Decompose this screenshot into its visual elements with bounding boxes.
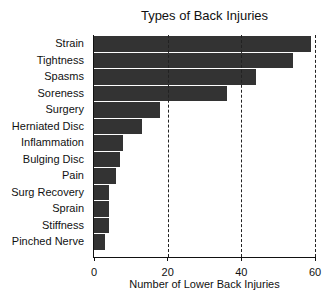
y-category-label: Bulging Disc bbox=[23, 153, 84, 165]
x-tick-label: 40 bbox=[226, 266, 256, 278]
y-category-label: Sprain bbox=[52, 202, 84, 214]
y-category-label: Pinched Nerve bbox=[12, 235, 84, 247]
x-tick-label: 60 bbox=[300, 266, 330, 278]
x-tick bbox=[94, 257, 95, 261]
y-category-label: Soreness bbox=[38, 87, 84, 99]
y-category-label: Tightness bbox=[37, 54, 84, 66]
y-category-label: Strain bbox=[55, 37, 84, 49]
x-tick bbox=[315, 257, 316, 261]
bar bbox=[94, 218, 109, 234]
x-tick bbox=[167, 257, 168, 261]
bar bbox=[94, 69, 256, 85]
bar bbox=[94, 119, 142, 135]
gridline bbox=[315, 35, 316, 257]
y-category-label: Spasms bbox=[44, 70, 84, 82]
bar bbox=[94, 201, 109, 217]
y-category-label: Surg Recovery bbox=[11, 186, 84, 198]
bar bbox=[94, 234, 105, 250]
bar bbox=[94, 168, 116, 184]
chart-title: Types of Back Injuries bbox=[94, 8, 315, 23]
bar bbox=[94, 53, 293, 69]
bar bbox=[94, 36, 311, 52]
bar bbox=[94, 86, 227, 102]
y-category-label: Inflammation bbox=[21, 136, 84, 148]
x-axis-label: Number of Lower Back Injuries bbox=[94, 278, 315, 290]
bar bbox=[94, 102, 160, 118]
x-axis bbox=[93, 257, 316, 258]
bar bbox=[94, 152, 120, 168]
y-category-label: Pain bbox=[62, 169, 84, 181]
x-tick bbox=[241, 257, 242, 261]
x-tick-label: 20 bbox=[153, 266, 183, 278]
y-category-label: Surgery bbox=[45, 103, 84, 115]
gridline bbox=[168, 35, 169, 257]
x-tick-label: 0 bbox=[79, 266, 109, 278]
gridline bbox=[241, 35, 242, 257]
y-category-label: Herniated Disc bbox=[12, 120, 84, 132]
bar bbox=[94, 135, 123, 151]
bar bbox=[94, 185, 109, 201]
y-axis bbox=[93, 35, 94, 258]
y-category-label: Stiffness bbox=[42, 219, 84, 231]
